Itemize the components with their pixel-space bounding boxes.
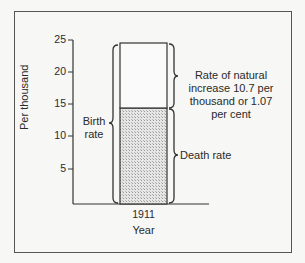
y-tick-20: 20 — [46, 65, 66, 77]
x-axis-label: Year — [120, 224, 167, 237]
y-tick-10: 10 — [46, 129, 66, 141]
y-tick-5: 5 — [46, 162, 66, 174]
death-rate-label: Death rate — [180, 149, 231, 162]
x-tick-1911: 1911 — [120, 208, 167, 221]
death-rate-brace — [169, 109, 178, 203]
natural-increase-label: Rate of natural increase 10.7 per thousa… — [176, 69, 286, 121]
birth-rate-label: Birth rate — [80, 115, 108, 141]
birth-rate-brace — [109, 45, 118, 203]
bar-death-rate — [120, 108, 167, 204]
bar-natural-increase — [120, 43, 167, 108]
y-tick-15: 15 — [46, 97, 66, 109]
y-axis-label: Per thousand — [18, 65, 30, 130]
y-tick-25: 25 — [46, 33, 66, 45]
